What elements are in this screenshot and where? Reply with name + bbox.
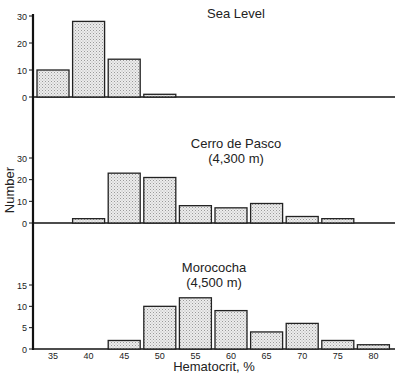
histogram-bar [251,204,283,224]
y-tick-label: 20 [17,175,27,185]
y-tick-label: 10 [17,302,27,312]
x-tick-label: 50 [155,351,165,361]
y-tick-label: 30 [17,12,27,22]
y-axis-label: Number [2,166,17,213]
x-tick-label: 65 [262,351,272,361]
histogram-bar [179,206,211,223]
y-tick-label: 5 [22,323,27,333]
panel-subtitle: (4,300 m) [208,151,264,166]
panel-morococha: 051015Morococha(4,500 m) [17,260,395,355]
hematocrit-histogram-chart: 0102030Sea Level0102030Cerro de Pasco(4,… [0,0,400,378]
histogram-bar [357,345,389,349]
histogram-bar [108,173,140,223]
histogram-bar [73,219,105,223]
panel-subtitle: (4,500 m) [186,275,242,290]
histogram-bar [144,178,176,224]
histogram-bar [37,70,69,97]
y-tick-label: 10 [17,197,27,207]
histogram-bar [144,94,176,97]
x-tick-label: 45 [119,351,129,361]
histogram-bar [251,332,283,349]
y-tick-label: 30 [17,154,27,164]
histogram-bar [144,306,176,349]
panel-title: Sea Level [207,6,265,21]
x-tick-label: 40 [84,351,94,361]
histogram-bar [322,219,354,223]
histogram-bar [215,311,247,349]
y-tick-label: 0 [22,219,27,229]
x-axis-label: Hematocrit, % [173,359,255,374]
y-tick-label: 0 [22,93,27,103]
histogram-bar [108,59,140,97]
histogram-bar [73,21,105,97]
histogram-bar [286,323,318,349]
histogram-bar [215,208,247,223]
panel-sea-level: 0102030Sea Level [17,6,395,103]
histogram-bar [179,298,211,349]
y-tick-label: 10 [17,66,27,76]
x-tick-label: 35 [48,351,58,361]
y-tick-label: 20 [17,39,27,49]
panel-cerro-de-pasco: 0102030Cerro de Pasco(4,300 m) [17,136,395,229]
panel-title: Cerro de Pasco [191,136,281,151]
histogram-bar [322,340,354,349]
panel-title: Morococha [182,260,247,275]
histogram-bar [286,217,318,224]
x-tick-label: 75 [333,351,343,361]
histogram-bar [108,340,140,349]
y-tick-label: 15 [17,281,27,291]
y-tick-label: 0 [22,345,27,355]
x-tick-label: 70 [297,351,307,361]
x-tick-label: 80 [368,351,378,361]
